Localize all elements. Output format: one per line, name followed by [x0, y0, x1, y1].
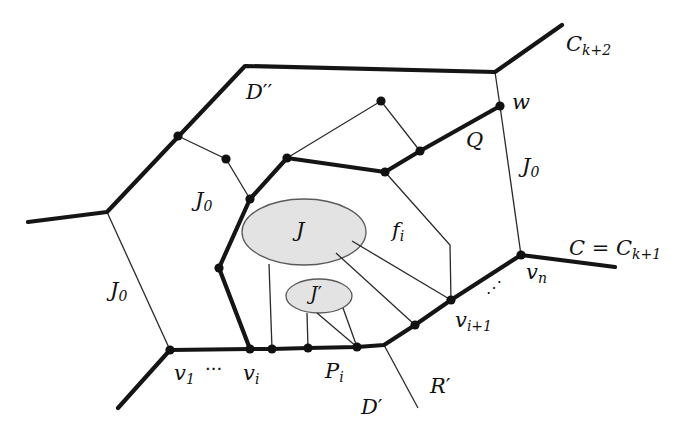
- label-w-text: w: [512, 90, 530, 114]
- label-w: w: [512, 92, 530, 113]
- label-j-text: J: [296, 218, 304, 242]
- label-v-n: vn: [526, 262, 547, 285]
- label-equals: =: [585, 236, 616, 260]
- label-j0-left: J0: [110, 280, 127, 303]
- label-vi1-base: v: [455, 308, 467, 332]
- dots-left-text: ···: [205, 358, 222, 379]
- label-v1-base: v: [174, 361, 186, 385]
- label-j0-middle: J0: [195, 190, 212, 213]
- label-vn-base: v: [526, 260, 538, 284]
- vertex: [303, 343, 312, 352]
- label-v-i: vi: [243, 363, 259, 386]
- edge-inner-top: [287, 101, 420, 158]
- label-vn-sub: n: [538, 270, 547, 286]
- vertex: [352, 342, 361, 351]
- label-d-primes: ′′: [263, 80, 273, 104]
- label-fi-sub: i: [400, 228, 404, 244]
- vertex: [415, 146, 424, 155]
- vertex-w: [495, 101, 504, 110]
- label-c: C: [569, 236, 585, 260]
- label-rp-prime: ′: [446, 374, 451, 398]
- label-p-i: Pi: [325, 361, 344, 384]
- vertex-v1: [165, 345, 174, 354]
- vertex: [221, 154, 230, 163]
- label-pi-sub: i: [339, 369, 343, 385]
- vertex: [282, 153, 291, 162]
- label-j-prime: J′: [310, 284, 322, 303]
- label-v-1: v1: [174, 363, 195, 386]
- edge-w-to-vn: [500, 106, 521, 255]
- label-jp-base: J: [310, 282, 318, 304]
- label-j0-left-sub: 0: [118, 288, 127, 304]
- edge-j-to-vi1: [352, 241, 451, 300]
- label-c-k1-sub: k+1: [632, 246, 661, 262]
- graph-diagram: Ck+2 D′′ w Q J0 J0 J fi C = Ck+1 vn ⋰ J′…: [0, 0, 696, 437]
- label-d-double-prime: D′′: [246, 82, 272, 103]
- edge-d-prime-boundary: [384, 345, 418, 408]
- label-vi1-sub: i+1: [467, 318, 492, 334]
- label-dots-left: ···: [205, 360, 222, 378]
- label-d-prime: D′: [361, 397, 383, 418]
- label-c2: C: [616, 236, 632, 260]
- vertex-vi: [245, 344, 254, 353]
- label-c-k2: Ck+2: [566, 34, 611, 57]
- edge-inner-left: [178, 136, 250, 199]
- label-fi-base: f: [392, 218, 400, 242]
- graph-canvas: [0, 0, 696, 437]
- label-j0-right: J0: [522, 156, 539, 179]
- edge-jp-to-path-1: [307, 313, 308, 348]
- label-rp-base: R: [430, 374, 446, 398]
- label-pi-base: P: [325, 359, 339, 383]
- label-dp-base: D: [361, 395, 378, 419]
- label-jp-prime: ′: [318, 282, 322, 304]
- label-c-k2-sub: k+2: [582, 42, 611, 58]
- edge-j-to-path-1: [269, 264, 272, 349]
- vertex: [380, 167, 389, 176]
- label-vi-base: v: [243, 361, 255, 385]
- label-v-i1: vi+1: [455, 310, 492, 333]
- vertex: [245, 194, 254, 203]
- label-c-k2-base: C: [566, 32, 582, 56]
- vertex: [173, 131, 182, 140]
- vertex-vn: [516, 250, 525, 259]
- label-v1-sub: 1: [186, 371, 195, 387]
- label-q: Q: [466, 130, 483, 151]
- vertex: [214, 263, 223, 272]
- label-vi-sub: i: [255, 371, 259, 387]
- label-f-i: fi: [392, 220, 404, 243]
- label-r-prime: R′: [430, 376, 451, 397]
- vertex-vi1: [446, 295, 455, 304]
- label-d-base: D: [246, 80, 263, 104]
- label-dots-right: ⋰: [486, 280, 502, 296]
- vertex: [267, 344, 276, 353]
- dots-right-text: ⋰: [486, 278, 502, 297]
- vertex: [376, 96, 385, 105]
- cycle-c-k2: [28, 25, 562, 222]
- label-c-eq-c-k1: C = Ck+1: [569, 238, 661, 261]
- label-j0-middle-sub: 0: [203, 198, 212, 214]
- label-q-text: Q: [466, 128, 483, 152]
- label-j: J: [296, 220, 304, 241]
- label-dp-prime: ′: [378, 395, 383, 419]
- vertex: [410, 320, 419, 329]
- edge-top-to-w: [495, 72, 500, 106]
- label-j0-right-sub: 0: [530, 164, 539, 180]
